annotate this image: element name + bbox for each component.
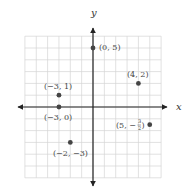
- point-label-neg2-neg3: (−2, −3): [53, 149, 88, 158]
- point-label-neg3-1: (−3, 1): [44, 82, 72, 91]
- point-label-5-suffix: ): [142, 121, 145, 130]
- x-axis-label: x: [176, 101, 182, 112]
- point-label-5-prefix: (5, −: [116, 121, 136, 130]
- point-label-4-2: (4, 2): [127, 70, 149, 79]
- point-label-0-5: (0, 5): [99, 43, 121, 52]
- plotted-point: [57, 105, 62, 110]
- plotted-point: [68, 140, 73, 145]
- plotted-point: [136, 81, 141, 86]
- y-axis-label: y: [90, 7, 97, 18]
- point-label-neg3-0: (−3, 0): [44, 113, 72, 122]
- point-label-5-neg3half: (5, − 3 2 ): [116, 118, 145, 131]
- plotted-point: [147, 122, 152, 127]
- plotted-point: [57, 93, 62, 98]
- plotted-point: [91, 46, 96, 51]
- coordinate-plane: x y (0, 5) (4, 2) (−3, 1) (−3, 0) (5, − …: [0, 0, 191, 191]
